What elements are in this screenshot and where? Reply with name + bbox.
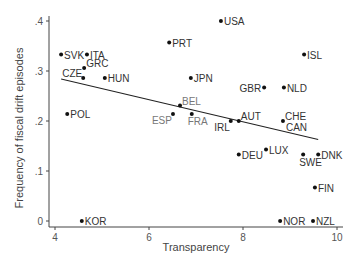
y-tick-label: .3 [35, 66, 44, 77]
point-label: CHE [285, 111, 306, 122]
point-label: NZL [316, 216, 335, 227]
data-point [189, 76, 193, 80]
fit-line [61, 79, 318, 140]
data-point [65, 112, 69, 116]
data-point [80, 219, 84, 223]
point-label: KOR [85, 216, 107, 227]
point-label: USA [224, 16, 245, 27]
point-label: SVK [64, 50, 84, 61]
point-label: ESP [152, 115, 172, 126]
point-label: AUT [241, 111, 261, 122]
point-label: CZE [62, 68, 82, 79]
point-label: NLD [287, 83, 307, 94]
data-point [278, 219, 282, 223]
y-tick-label: .4 [35, 16, 44, 27]
data-point [167, 41, 171, 45]
data-point [59, 53, 63, 57]
x-tick-label: 6 [146, 232, 152, 243]
point-label: DNK [321, 150, 342, 161]
point-label: POL [70, 109, 90, 120]
data-point [302, 53, 306, 57]
data-point [103, 76, 107, 80]
y-axis-label: Frequency of fiscal drift episodes [13, 47, 25, 208]
y-tick-label: 0 [37, 216, 43, 227]
point-label: DEU [242, 150, 263, 161]
point-label: ISL [307, 50, 322, 61]
point-label: NOR [283, 216, 305, 227]
x-axis-label: Transparency [163, 241, 230, 253]
point-label: SWE [299, 157, 322, 168]
point-label: GBR [239, 83, 261, 94]
data-point [311, 219, 315, 223]
data-point [313, 186, 317, 190]
data-points: SVKITAGRCCZEHUNPOLKORPRTUSAISLJPNGBRNLDB… [59, 16, 343, 227]
point-label: GRC [86, 58, 108, 69]
data-point [282, 86, 286, 90]
x-tick-label: 4 [52, 232, 58, 243]
point-label: LUX [269, 145, 289, 156]
data-point [264, 148, 268, 152]
point-label: JPN [194, 73, 213, 84]
y-tick-label: .2 [35, 116, 44, 127]
data-point [219, 19, 223, 23]
point-label: FIN [318, 183, 334, 194]
point-label: IRL [214, 122, 230, 133]
point-label: HUN [108, 73, 130, 84]
point-label: BEL [182, 96, 201, 107]
point-label: CAN [286, 122, 307, 133]
point-label: PRT [172, 38, 192, 49]
x-tick-label: 10 [331, 232, 343, 243]
point-label: FRA [188, 116, 208, 127]
data-point [262, 86, 266, 90]
data-point [316, 153, 320, 157]
data-point [85, 53, 89, 57]
data-point [237, 153, 241, 157]
x-tick-label: 8 [240, 232, 246, 243]
scatter-chart: 0.1.2.3.446810 SVKITAGRCCZEHUNPOLKORPRTU… [0, 0, 360, 263]
y-tick-label: .1 [35, 166, 44, 177]
regression-line [61, 79, 318, 140]
